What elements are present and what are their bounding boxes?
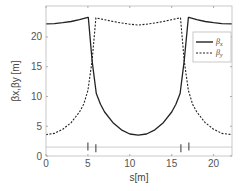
y-tick-label: 20	[31, 31, 43, 42]
x-axis-label: s[m]	[130, 172, 149, 183]
y-tick-label: 5	[36, 121, 42, 132]
x-tick-label: 15	[166, 158, 178, 169]
legend-box	[193, 32, 231, 62]
legend: βx βy	[193, 32, 231, 62]
y-tick-label: 10	[31, 91, 43, 102]
x-tick-label: 10	[124, 158, 136, 169]
x-axis-ticks: 05101520	[43, 6, 219, 169]
y-tick-label: 15	[31, 61, 43, 72]
y-axis-label: βx,βy [m]	[10, 60, 21, 101]
x-tick-label: 20	[208, 158, 220, 169]
beta-function-chart: 05101520 05101520 s[m] βx,βy [m] βx βy	[0, 0, 244, 191]
plot-area-frame	[46, 6, 232, 156]
x-tick-label: 5	[85, 158, 91, 169]
x-tick-label: 0	[43, 158, 49, 169]
y-tick-label: 0	[36, 151, 42, 162]
